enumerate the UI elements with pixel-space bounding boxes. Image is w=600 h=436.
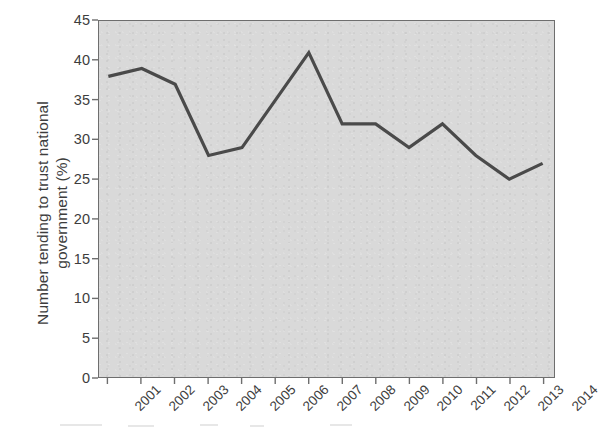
y-tick-label: 45 bbox=[58, 12, 90, 28]
x-tick-label: 2005 bbox=[266, 382, 298, 414]
scan-artifact bbox=[60, 424, 102, 426]
y-tick-label: 20 bbox=[58, 211, 90, 227]
x-tick-label: 2012 bbox=[501, 382, 533, 414]
x-tick-label: 2008 bbox=[367, 382, 399, 414]
scan-artifact bbox=[250, 425, 264, 427]
y-axis-tick-labels: 051015202530354045 bbox=[58, 20, 90, 378]
y-tick-label: 15 bbox=[58, 251, 90, 267]
y-tick-label: 0 bbox=[58, 370, 90, 386]
x-tick-label: 2002 bbox=[166, 382, 198, 414]
y-tick-label: 40 bbox=[58, 52, 90, 68]
y-tick-label: 30 bbox=[58, 131, 90, 147]
x-tick-label: 2004 bbox=[233, 382, 265, 414]
x-tick-label: 2003 bbox=[199, 382, 231, 414]
trust-line-polyline bbox=[108, 53, 542, 180]
scan-artifact bbox=[200, 424, 218, 426]
x-tick-label: 2006 bbox=[300, 382, 332, 414]
x-axis-tick-labels: 2001200220032004200520062007200820092010… bbox=[98, 382, 555, 430]
x-tick-label: 2010 bbox=[434, 382, 466, 414]
x-tick-label: 2014 bbox=[568, 382, 600, 414]
x-tick-label: 2007 bbox=[334, 382, 366, 414]
y-tick-label: 10 bbox=[58, 290, 90, 306]
x-tick-label: 2009 bbox=[401, 382, 433, 414]
y-tick-label: 25 bbox=[58, 171, 90, 187]
y-axis-title-line-1: Number tending to trust national bbox=[34, 101, 53, 325]
scan-artifact bbox=[330, 424, 352, 426]
scan-artifact bbox=[128, 425, 154, 427]
x-tick-label: 2001 bbox=[132, 382, 164, 414]
x-tick-label: 2011 bbox=[467, 382, 498, 413]
x-tick-label: 2013 bbox=[535, 382, 567, 414]
y-tick-label: 35 bbox=[58, 92, 90, 108]
y-tick-label: 5 bbox=[58, 330, 90, 346]
plot-area bbox=[98, 20, 555, 378]
data-line-series bbox=[99, 21, 554, 377]
